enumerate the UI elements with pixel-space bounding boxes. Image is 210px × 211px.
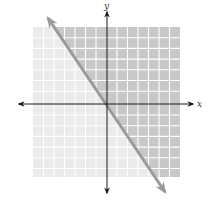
inequality-graph: x y [0, 0, 210, 211]
x-axis-label: x [197, 99, 202, 109]
y-axis-label: y [103, 1, 110, 11]
